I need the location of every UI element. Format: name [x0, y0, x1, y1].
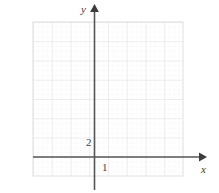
y-axis-tick-label-2: 2: [86, 137, 92, 148]
major-gridlines: [33, 22, 183, 176]
grid-group: [33, 22, 183, 176]
coordinate-plane-canvas: [0, 0, 219, 193]
y-axis-label: y: [81, 4, 86, 15]
x-axis-arrowhead: [199, 153, 207, 162]
coordinate-plane-figure: y x 2 1: [0, 0, 219, 193]
x-axis-label: x: [201, 164, 206, 175]
x-axis-tick-label-1: 1: [102, 162, 108, 173]
y-axis-arrowhead: [90, 4, 99, 12]
